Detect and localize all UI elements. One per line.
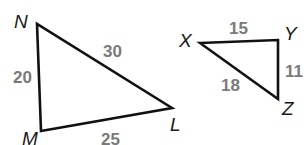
side-label-nl: 30 bbox=[103, 42, 122, 61]
triangle-nml-outline bbox=[37, 24, 172, 131]
side-label-nm: 20 bbox=[13, 68, 32, 87]
triangle-xyz: X Y Z 15 11 18 bbox=[178, 19, 303, 119]
vertex-label-y: Y bbox=[284, 23, 298, 44]
side-label-ml: 25 bbox=[101, 130, 120, 145]
vertex-label-x: X bbox=[178, 30, 193, 51]
diagram-canvas: N M L 20 30 25 X Y Z 15 11 18 bbox=[0, 0, 305, 145]
side-label-xz: 18 bbox=[221, 76, 240, 95]
vertex-label-z: Z bbox=[281, 98, 295, 119]
side-label-xy: 15 bbox=[229, 19, 248, 38]
vertex-label-l: L bbox=[170, 114, 181, 135]
vertex-label-n: N bbox=[14, 11, 28, 32]
vertex-label-m: M bbox=[22, 128, 38, 145]
side-label-yz: 11 bbox=[285, 62, 303, 81]
triangle-nml: N M L 20 30 25 bbox=[13, 11, 181, 145]
